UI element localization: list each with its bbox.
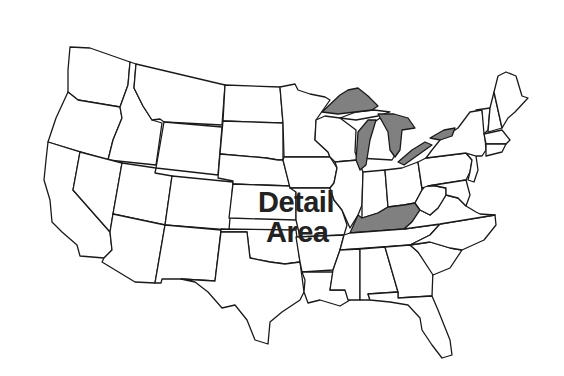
state-connecticut [486,144,506,156]
state-florida [368,292,452,358]
state-north-dakota [223,85,283,123]
state-new-mexico [155,225,221,283]
state-wyoming [156,122,222,175]
state-new-york [426,110,486,158]
label-line-2: Area [266,217,334,247]
state-colorado [165,176,233,230]
state-arizona [102,214,165,283]
state-iowa [283,157,337,188]
detail-area-label: Detail Area [258,187,334,247]
label-line-1: Detail [258,187,334,217]
lake-superior [322,88,378,114]
state-washington [68,47,130,107]
state-south-dakota [220,121,283,160]
